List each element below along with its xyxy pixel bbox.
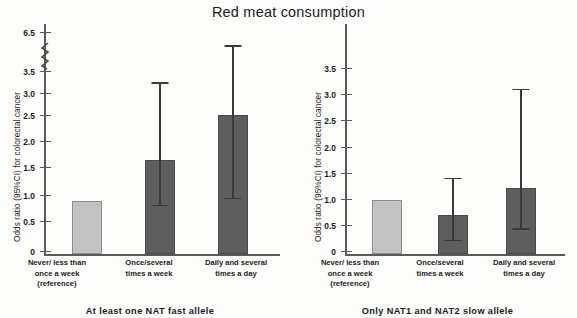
y-tick-right-3.5: 3.5	[341, 68, 352, 69]
y-tick-left-1.5: 1.5	[40, 167, 51, 168]
errorbar-cap-top	[512, 89, 529, 91]
y-tick-left-2.0: 2.0	[40, 141, 51, 142]
errorbar-right-daily-and-several-times-a-day	[520, 89, 522, 230]
y-tick-right-1.0: 1.0	[341, 199, 352, 200]
plot-area-left: 6.5 3.5 3.0 2.5 2.0 1.5 1.0 0.5 0	[44, 24, 280, 256]
y-tick-left-2.5: 2.5	[40, 115, 51, 116]
plot-area-right: 3.5 3.0 2.5 2.0 1.5 1.0 0.5 0	[345, 24, 565, 256]
y-tick-left-3.5: 3.5	[40, 71, 51, 72]
y-tick-right-3.0: 3.0	[341, 94, 352, 95]
x-label-left-0: Never/ less than once a week (reference)	[9, 258, 105, 290]
x-axis-line-right	[345, 254, 565, 256]
chart-panel-right: Odds ratio (95%CI) for colorectal cancer…	[298, 24, 577, 318]
y-tick-right-0: 0	[341, 251, 352, 252]
y-tick-left-3.0: 3.0	[40, 93, 51, 94]
errorbar-cap-bottom	[512, 228, 529, 230]
x-label-left-2: Daily and several times a day	[187, 258, 285, 279]
axis-break-icon	[39, 42, 52, 68]
errorbar-cap-bottom	[151, 205, 168, 207]
y-axis-label-left: Odds ratio (95%CI) for colorectal cancer	[13, 42, 22, 242]
errorbar-cap-top	[224, 45, 241, 47]
errorbar-right-once-several-times-a-week	[452, 178, 454, 242]
y-tick-left-0: 0	[40, 251, 51, 252]
y-tick-right-2.0: 2.0	[341, 147, 352, 148]
bar-right-never-less-than-once-a-week	[372, 200, 402, 254]
x-label-left-1: Once/several times a week	[108, 258, 190, 279]
errorbar-left-daily-and-several-times-a-day	[232, 45, 234, 199]
y-tick-left-6.5: 6.5	[40, 32, 51, 33]
x-label-right-0: Never/ less than once a week (reference)	[302, 258, 398, 290]
errorbar-cap-bottom	[224, 198, 241, 200]
x-label-right-1: Once/several times a week	[399, 258, 481, 279]
y-axis-line-right	[345, 24, 347, 256]
y-tick-right-1.5: 1.5	[341, 173, 352, 174]
x-label-right-2: Daily and several times a day	[475, 258, 573, 279]
errorbar-cap-top	[444, 178, 461, 180]
y-tick-right-2.5: 2.5	[341, 120, 352, 121]
errorbar-left-once-several-times-a-week	[159, 82, 161, 206]
errorbar-cap-bottom	[444, 240, 461, 242]
panel-caption-left: At least one NAT fast allele	[4, 306, 296, 316]
bar-left-never-less-than-once-a-week	[72, 201, 102, 254]
y-tick-left-1.0: 1.0	[40, 195, 51, 196]
panel-caption-right: Only NAT1 and NAT2 slow allele	[298, 306, 577, 316]
x-axis-labels-left: Never/ less than once a week (reference)…	[4, 258, 296, 298]
errorbar-cap-top	[151, 82, 168, 84]
x-axis-labels-right: Never/ less than once a week (reference)…	[298, 258, 577, 298]
chart-panel-left: Odds ratio (95%CI) for colorectal cancer…	[4, 24, 296, 318]
page-title: Red meat consumption	[0, 4, 577, 20]
y-axis-label-right: Odds ratio (95%CI) for colorectal cancer	[314, 42, 323, 242]
y-tick-right-0.5: 0.5	[341, 225, 352, 226]
figure-root: Red meat consumption Odds ratio (95%CI) …	[0, 0, 577, 318]
y-tick-left-0.5: 0.5	[40, 221, 51, 222]
x-axis-line-left	[44, 254, 280, 256]
